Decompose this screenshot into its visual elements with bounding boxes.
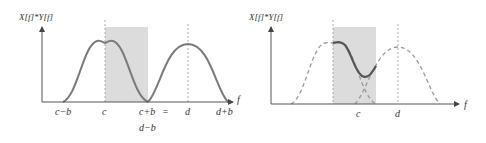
left-panel: X[f]*Y[f] f c−b c c+b = d d+b d−b	[18, 12, 241, 133]
diagram-canvas: X[f]*Y[f] f c−b c c+b = d d+b d−b X[f]*Y…	[0, 0, 486, 143]
left-tick-c: c	[102, 106, 107, 117]
left-tick-d: d	[185, 106, 191, 117]
left-x-axis-label: f	[237, 94, 241, 105]
right-tick-c: c	[356, 108, 361, 119]
right-y-axis-label: X[f]*Y[f]	[248, 12, 284, 22]
right-x-axis-label: f	[464, 99, 468, 110]
left-tick-d-plus-b: d+b	[216, 106, 233, 117]
left-tick-equals: =	[162, 106, 169, 117]
left-tick-c-minus-b: c−b	[55, 106, 71, 117]
left-tick-c-plus-b: c+b	[139, 106, 155, 117]
right-panel: X[f]*Y[f] f c d	[248, 12, 468, 119]
left-shaded-band	[105, 27, 148, 102]
right-tick-d: d	[395, 108, 401, 119]
left-y-axis-label: X[f]*Y[f]	[18, 12, 54, 22]
left-tick-d-minus-b: d−b	[139, 122, 156, 133]
